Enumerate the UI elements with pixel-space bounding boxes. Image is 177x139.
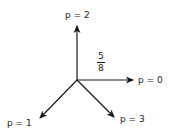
label-p0: p = 0 xyxy=(138,76,163,85)
arrow-p1 xyxy=(40,80,77,118)
fraction-denominator: 8 xyxy=(98,63,104,73)
arrow-p3 xyxy=(77,80,114,117)
label-p1: p = 1 xyxy=(7,119,32,128)
label-p2: p = 2 xyxy=(65,11,90,20)
fraction-annotation: 5 8 xyxy=(97,52,105,73)
fraction-numerator: 5 xyxy=(97,52,105,63)
vector-diagram: p = 2 p = 0 p = 1 p = 3 5 8 xyxy=(0,0,177,139)
label-p3: p = 3 xyxy=(120,115,145,124)
